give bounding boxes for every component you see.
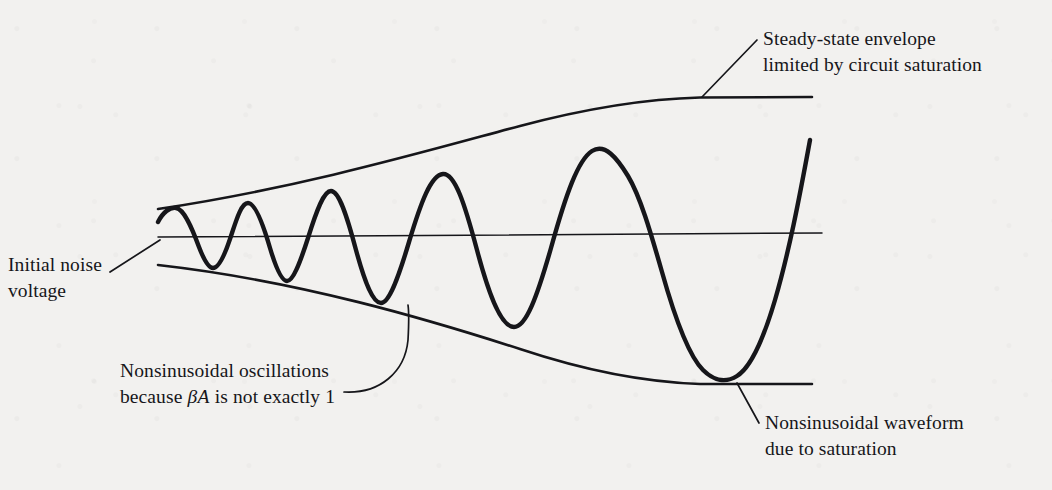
label-initial-noise-line1: Initial noise: [8, 252, 102, 278]
label-initial-noise-line2: voltage: [8, 278, 102, 304]
initial-noise-leader-line: [110, 240, 160, 272]
label-nonsinusoidal-osc-line2: because βA is not exactly 1: [120, 384, 335, 410]
label-nonsinusoidal-oscillations: Nonsinusoidal oscillations because βA is…: [120, 358, 335, 409]
label-steady-state-line1: Steady-state envelope: [763, 26, 982, 52]
oscillation-waveform-curve: [158, 140, 810, 380]
upper-envelope-curve: [158, 97, 812, 209]
label-nonsinusoidal-wave-line2: due to saturation: [765, 436, 964, 462]
label-nonsinusoidal-osc-line1: Nonsinusoidal oscillations: [120, 358, 335, 384]
label-nonsinusoidal-wave-line1: Nonsinusoidal waveform: [765, 410, 964, 436]
label-nonsinusoidal-osc-suffix: is not exactly 1: [210, 386, 335, 407]
nonsinusoidal-waveform-leader-line: [737, 383, 759, 423]
zero-axis-line: [158, 233, 822, 237]
label-initial-noise-voltage: Initial noise voltage: [8, 252, 102, 303]
steady-state-leader-line: [702, 40, 757, 97]
oscillator-figure: Steady-state envelope limited by circuit…: [0, 0, 1052, 490]
label-steady-state-envelope: Steady-state envelope limited by circuit…: [763, 26, 982, 77]
nonsinusoidal-oscillations-leader-line: [344, 305, 409, 392]
label-nonsinusoidal-waveform: Nonsinusoidal waveform due to saturation: [765, 410, 964, 461]
label-beta-a-symbol: βA: [187, 386, 209, 407]
label-steady-state-line2: limited by circuit saturation: [763, 52, 982, 78]
label-nonsinusoidal-osc-prefix: because: [120, 386, 187, 407]
